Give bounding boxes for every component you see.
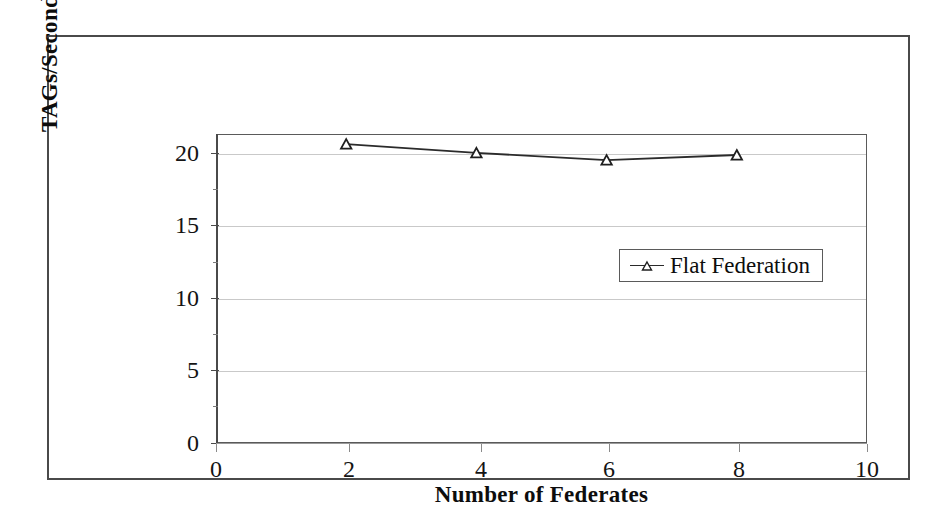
y-tick-label-20: 20	[149, 141, 199, 165]
y-tick-label-10: 10	[149, 286, 199, 310]
figure-frame: 20 15 10 5 0 0 2 4 6 8 10 TAGs/Second Nu…	[47, 35, 910, 480]
series-line	[346, 144, 737, 160]
legend-marker-svg	[630, 259, 664, 273]
x-axis	[216, 443, 867, 444]
triangle-marker-icon	[630, 259, 664, 273]
series-markers	[341, 139, 742, 164]
x-tick-label-8: 8	[709, 457, 769, 481]
x-tick-label-4: 4	[451, 457, 511, 481]
x-tick-2	[349, 444, 350, 452]
x-axis-title: Number of Federates	[216, 482, 867, 508]
x-tick-8	[739, 444, 740, 452]
legend-entry-label: Flat Federation	[670, 254, 810, 277]
x-tick-label-6: 6	[579, 457, 639, 481]
x-tick-label-10: 10	[837, 457, 897, 481]
y-tick-label-5: 5	[149, 358, 199, 382]
y-tick-label-15: 15	[149, 213, 199, 237]
y-axis-title: TAGs/Second	[37, 0, 63, 132]
x-tick-label-0: 0	[186, 457, 246, 481]
x-tick-0	[216, 444, 217, 452]
x-tick-10	[867, 444, 868, 452]
x-tick-4	[481, 444, 482, 452]
x-tick-label-2: 2	[319, 457, 379, 481]
series-flat-federation	[216, 134, 867, 443]
chart-legend: Flat Federation	[619, 249, 823, 282]
x-tick-6	[609, 444, 610, 452]
y-tick-label-0: 0	[149, 431, 199, 455]
